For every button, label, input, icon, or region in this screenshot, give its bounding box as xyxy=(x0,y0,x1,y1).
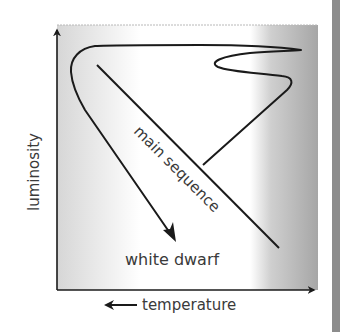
white-dwarf-label: white dwarf xyxy=(125,250,220,269)
luminosity-label: luminosity xyxy=(25,133,43,211)
hr-diagram: main sequence white dwarf luminosity tem… xyxy=(0,0,340,332)
temperature-label: temperature xyxy=(142,296,236,314)
